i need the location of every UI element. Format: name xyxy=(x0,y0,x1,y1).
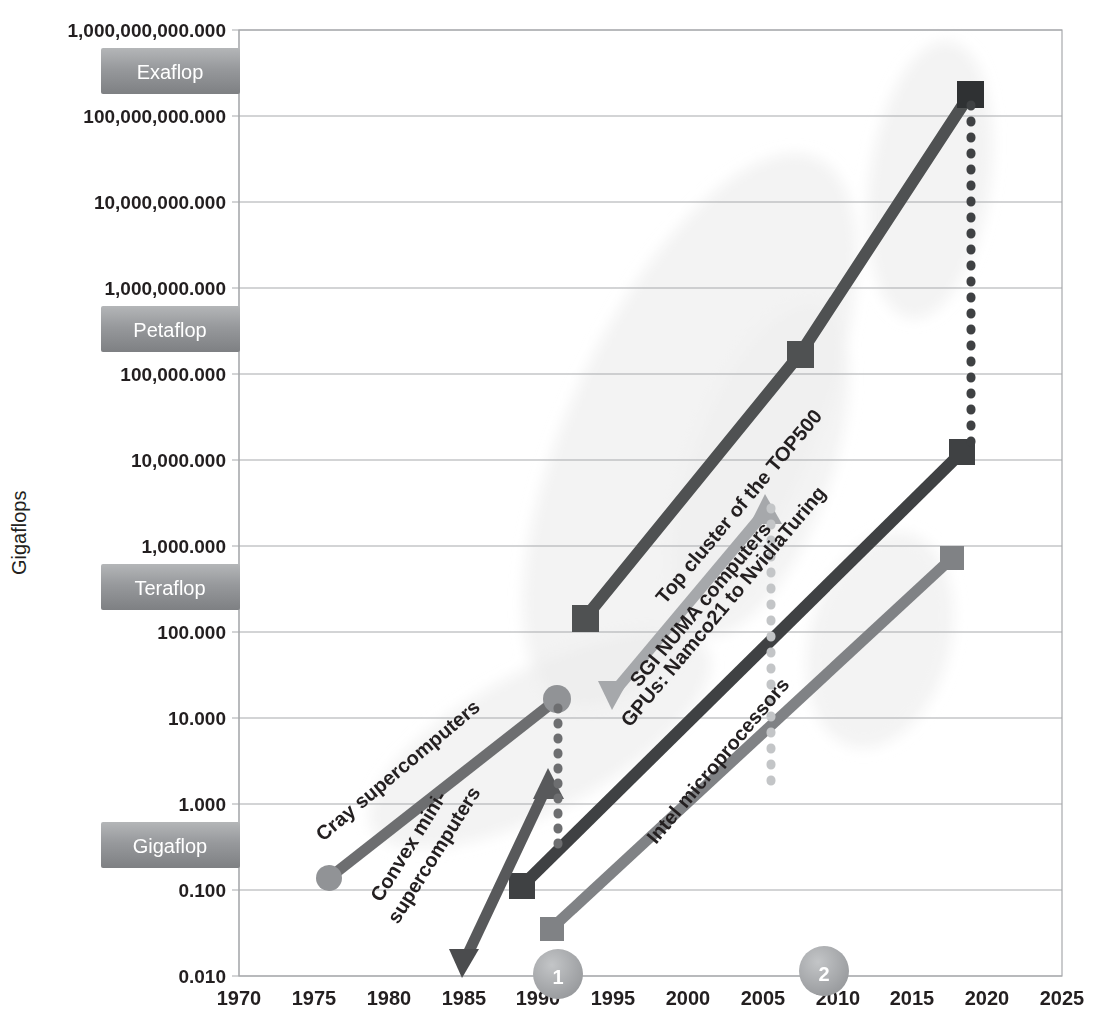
performance-band-teraflop: Teraflop xyxy=(101,564,240,610)
band-label: Petaflop xyxy=(133,319,206,341)
y-tick-label: 100,000.000 xyxy=(120,364,226,385)
series-marker-square xyxy=(940,546,964,570)
series-marker-circle xyxy=(316,865,342,891)
y-tick-label: 10,000.000 xyxy=(131,450,226,471)
x-tick-label: 1975 xyxy=(292,987,337,1009)
series-marker-triangle xyxy=(449,949,479,978)
series-marker-square xyxy=(787,341,814,368)
band-label: Teraflop xyxy=(134,577,205,599)
x-tick-label: 1980 xyxy=(367,987,412,1009)
x-tick-label: 1985 xyxy=(442,987,487,1009)
y-tick-label: 1.000 xyxy=(178,794,226,815)
y-tick-label: 1,000,000.000 xyxy=(104,278,226,299)
y-tick-label: 10,000,000.000 xyxy=(94,192,226,213)
y-tick-label: 100.000 xyxy=(157,622,226,643)
x-tick-label: 1995 xyxy=(591,987,636,1009)
y-tick-label: 100,000,000.000 xyxy=(83,106,226,127)
x-tick-label: 2025 xyxy=(1040,987,1085,1009)
x-tick-label: 2000 xyxy=(666,987,711,1009)
performance-band-gigaflop: Gigaflop xyxy=(101,822,240,868)
x-axis-tick-labels: 1970 1975 1980 1985 1990 1995 2000 2005 … xyxy=(217,987,1085,1009)
x-tick-label: 2020 xyxy=(965,987,1010,1009)
y-axis-title: Gigaflops xyxy=(8,491,30,576)
annotation-note-1[interactable]: 1 xyxy=(533,949,583,999)
series-marker-square xyxy=(572,605,599,632)
y-tick-label: 1,000.000 xyxy=(141,536,226,557)
scan-artifacts xyxy=(339,33,1009,891)
annotation-note-2[interactable]: 2 xyxy=(799,946,849,996)
y-tick-label: 1,000,000,000.000 xyxy=(68,20,227,41)
y-tick-label: 0.100 xyxy=(178,880,226,901)
series-marker-square xyxy=(509,873,535,899)
x-tick-label: 2005 xyxy=(741,987,786,1009)
y-tick-label: 0.010 xyxy=(178,966,226,987)
x-tick-label: 2015 xyxy=(890,987,935,1009)
annotation-note-2-label: 2 xyxy=(818,963,829,985)
band-label: Gigaflop xyxy=(133,835,208,857)
series-marker-square xyxy=(540,917,564,941)
annotation-note-1-label: 1 xyxy=(552,966,563,988)
y-tick-label: 10.000 xyxy=(168,708,226,729)
chart-svg: 1,000,000,000.000 100,000,000.000 10,000… xyxy=(0,0,1104,1036)
band-label: Exaflop xyxy=(137,61,204,83)
chart-root: 1,000,000,000.000 100,000,000.000 10,000… xyxy=(0,0,1104,1036)
performance-band-petaflop: Petaflop xyxy=(101,306,240,352)
performance-band-exaflop: Exaflop xyxy=(101,48,240,94)
x-tick-label: 1970 xyxy=(217,987,262,1009)
